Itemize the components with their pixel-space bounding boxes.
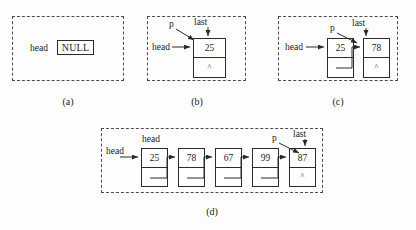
panel-b-node-0-value: 25 [194, 39, 225, 58]
panel-d-node-4-next: ^ [290, 168, 315, 187]
panel-b-node-0: 25 ^ [193, 38, 226, 78]
panel-d-p-label: p [272, 134, 277, 144]
panel-a-head-label: head [30, 44, 48, 54]
panel-d-node-1-next [179, 168, 204, 187]
panel-d-node-4-value: 87 [290, 149, 315, 168]
panel-c-head-label: head [285, 43, 303, 53]
panel-d-head-label: head [106, 147, 124, 157]
panel-b-last-label: last [194, 18, 207, 28]
panel-c-node-0: 25 [327, 38, 354, 78]
panel-d-last-label: last [293, 130, 306, 140]
panel-b-node-0-next: ^ [194, 58, 225, 77]
linked-list-figure: head NULL (a) p last head 25 ^ (b) p las… [0, 0, 416, 230]
panel-d-caption: (d) [192, 206, 232, 217]
panel-d-node-0-value: 25 [142, 149, 167, 168]
panel-b-caption: (b) [177, 96, 217, 107]
panel-d-node-1-value: 78 [179, 149, 204, 168]
panel-d-node-3-next [253, 168, 278, 187]
panel-c-node-1-value: 78 [364, 39, 389, 58]
panel-b-head-label: head [152, 43, 170, 53]
panel-d-node-4: 87 ^ [289, 148, 316, 187]
panel-d-node-0-next [142, 168, 167, 187]
panel-d-node-2-value: 67 [216, 149, 241, 168]
panel-d-node-3-value: 99 [253, 149, 278, 168]
panel-a-null-box: NULL [57, 40, 94, 55]
panel-d-node-2-next [216, 168, 241, 187]
panel-c-node-0-next [328, 58, 353, 77]
panel-d-node-3: 99 [252, 148, 279, 187]
panel-d-head-label-top: head [142, 135, 160, 145]
panel-c-last-label: last [352, 19, 365, 29]
panel-c-node-0-value: 25 [328, 39, 353, 58]
panel-d-node-1: 78 [178, 148, 205, 187]
panel-d-node-2: 67 [215, 148, 242, 187]
panel-d-node-0: 25 [141, 148, 168, 187]
panel-c-node-1: 78 ^ [363, 38, 390, 78]
panel-a-caption: (a) [48, 96, 88, 107]
panel-c-caption: (c) [318, 96, 358, 107]
panel-b-p-label: p [169, 20, 174, 30]
panel-c-node-1-next: ^ [364, 58, 389, 77]
panel-c-p-label: p [330, 24, 335, 34]
